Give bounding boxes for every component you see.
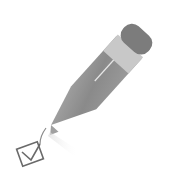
pencil-icon [38, 20, 157, 147]
checkbox-icon [17, 142, 44, 166]
pencil-stroke-line [40, 128, 46, 144]
pencil-checkbox-illustration [0, 0, 190, 195]
motion-shade [48, 132, 78, 156]
